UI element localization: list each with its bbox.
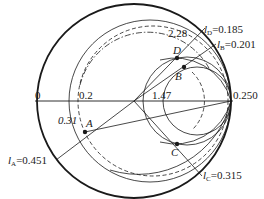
label-0: 0 bbox=[35, 89, 41, 101]
wavelength-label-C: lC=0.315 bbox=[203, 169, 242, 183]
wavelength-label-D: lD=0.185 bbox=[204, 23, 244, 37]
point-A bbox=[83, 130, 87, 134]
wavelength-label-B: lB=0.201 bbox=[217, 38, 256, 52]
wavelength-label-A: lA=0.451 bbox=[8, 154, 47, 168]
line-to-lC bbox=[134, 101, 202, 176]
point-label-D: D bbox=[172, 44, 181, 56]
label-0.250: 0.250 bbox=[233, 89, 258, 101]
reactance-arc-lower-2 bbox=[110, 101, 231, 174]
point-label-B: B bbox=[175, 70, 182, 82]
point-D bbox=[175, 56, 179, 60]
dash-dot-arc bbox=[80, 32, 210, 85]
label-0.2: 0.2 bbox=[79, 89, 93, 101]
label-0.31: 0.31 bbox=[58, 114, 77, 126]
point-B bbox=[182, 65, 186, 69]
label-1.47: 1.47 bbox=[152, 89, 172, 101]
label-2.28: 2.28 bbox=[168, 27, 188, 39]
point-label-A: A bbox=[85, 117, 93, 129]
point-label-C: C bbox=[171, 146, 179, 158]
smith-chart-diagram: 0 0.2 1.47 0.250 2.28 0.31 A B C D lD=0.… bbox=[0, 0, 264, 199]
line-to-lA bbox=[56, 101, 134, 160]
